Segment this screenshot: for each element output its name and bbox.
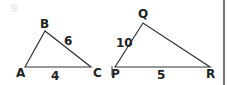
side-pr-length: 5 (157, 68, 165, 82)
side-pq-length: 10 (116, 36, 133, 50)
vertex-b-label: B (40, 17, 49, 31)
vertex-a-label: A (16, 66, 26, 80)
side-bc-length: 6 (64, 34, 72, 48)
vertex-r-label: R (206, 67, 215, 81)
triangles-diagram: 9 A B C 6 4 Q P R 10 5 (0, 0, 227, 85)
side-ac-length: 4 (51, 69, 59, 83)
vertex-c-label: C (93, 66, 102, 80)
vertex-p-label: P (111, 67, 120, 81)
vertex-q-label: Q (138, 7, 148, 21)
figure-number: 9 (10, 2, 18, 15)
triangle-abc (25, 31, 91, 67)
